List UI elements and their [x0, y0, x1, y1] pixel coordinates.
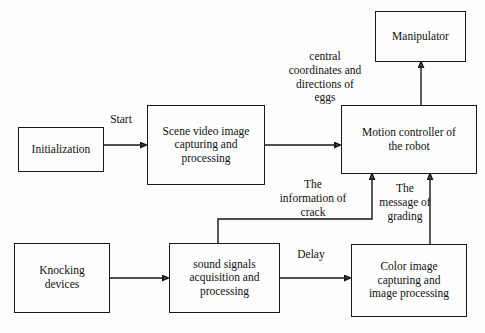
node-sound-signals[interactable]: sound signals acquisition and processing: [169, 243, 280, 313]
node-scene-video-label: Scene video image capturing and processi…: [159, 125, 254, 166]
node-sound-signals-label: sound signals acquisition and processing: [186, 258, 264, 299]
node-initialization-label: Initialization: [28, 143, 95, 157]
edge-label-information-of-crack: The information of crack: [262, 178, 364, 219]
node-knocking-devices-label: Knocking devices: [35, 264, 88, 291]
edge-label-central-coordinates: central coordinates and directions of eg…: [271, 50, 379, 105]
node-motion-controller-label: Motion controller of the robot: [358, 126, 460, 153]
node-initialization[interactable]: Initialization: [18, 127, 104, 172]
edge-label-message-of-grading: The message of grading: [370, 182, 440, 223]
node-knocking-devices[interactable]: Knocking devices: [14, 243, 110, 313]
node-manipulator-label: Manipulator: [388, 30, 453, 44]
node-color-image[interactable]: Color image capturing and image processi…: [351, 244, 467, 317]
node-manipulator[interactable]: Manipulator: [375, 11, 466, 62]
edge-label-start: Start: [96, 113, 146, 127]
node-motion-controller[interactable]: Motion controller of the robot: [341, 105, 477, 174]
edge-label-delay: Delay: [286, 248, 336, 262]
flowchart-canvas: Initialization Scene video image capturi…: [0, 0, 485, 333]
node-color-image-label: Color image capturing and image processi…: [365, 260, 453, 301]
node-scene-video[interactable]: Scene video image capturing and processi…: [147, 105, 265, 185]
